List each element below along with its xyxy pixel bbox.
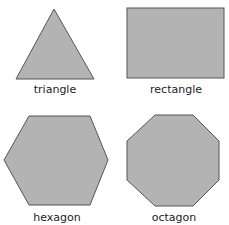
rectangle-label: rectangle bbox=[126, 83, 226, 96]
shapes-svg bbox=[0, 0, 229, 225]
triangle-label: triangle bbox=[5, 83, 105, 96]
hexagon-shape bbox=[4, 116, 108, 205]
shapes-diagram: triangle rectangle hexagon octagon bbox=[0, 0, 229, 225]
hexagon-label: hexagon bbox=[7, 211, 107, 224]
triangle-shape bbox=[16, 9, 94, 79]
rectangle-shape bbox=[127, 8, 224, 78]
octagon-shape bbox=[127, 115, 219, 206]
octagon-label: octagon bbox=[124, 211, 224, 224]
